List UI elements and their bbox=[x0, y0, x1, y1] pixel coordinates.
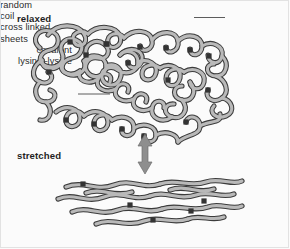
label-stretched: stretched bbox=[17, 150, 61, 161]
label-relaxed: relaxed bbox=[17, 13, 51, 24]
relaxed-coil-network bbox=[33, 26, 231, 142]
elastin-conformation-diagram: relaxed stretched random coil cross link… bbox=[0, 0, 290, 249]
stretched-sheet-network bbox=[58, 180, 242, 224]
diagram-artwork bbox=[0, 0, 290, 249]
